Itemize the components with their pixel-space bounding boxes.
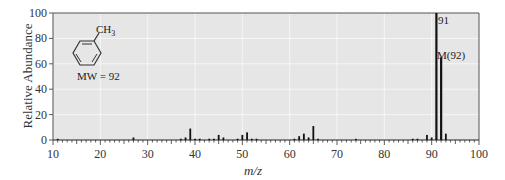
svg-text:30: 30	[142, 147, 154, 161]
svg-text:80: 80	[35, 31, 47, 45]
peak-bar	[133, 137, 135, 140]
svg-text:60: 60	[35, 57, 47, 71]
peak-bar	[194, 139, 196, 140]
peak-bar	[208, 139, 210, 140]
svg-text:80: 80	[378, 147, 390, 161]
peak-bar	[317, 139, 319, 140]
peak-bar	[246, 132, 248, 140]
svg-text:40: 40	[35, 82, 47, 96]
svg-text:60: 60	[284, 147, 296, 161]
peak-bar	[218, 135, 220, 140]
svg-text:70: 70	[331, 147, 343, 161]
peak-bar	[199, 139, 201, 140]
molecular-weight-label: MW = 92	[77, 70, 120, 82]
svg-text:40: 40	[189, 147, 201, 161]
peak-bar	[57, 139, 59, 140]
peak-bar	[417, 139, 419, 140]
svg-text:100: 100	[470, 147, 488, 161]
peak-bar	[251, 139, 253, 140]
x-axis-label: m/z	[244, 163, 262, 178]
peak-bar	[355, 139, 357, 140]
peak-bar	[223, 137, 225, 140]
peak-label-molecular-ion: M(92)	[437, 49, 465, 62]
peak-bar	[189, 129, 191, 140]
peak-bar	[213, 139, 215, 140]
mass-spectrum-chart: 102030405060708090100 020406080100 Relat…	[0, 0, 505, 180]
y-axis-label: Relative Abundance	[20, 23, 35, 128]
peak-bar	[180, 139, 182, 140]
peak-bar	[241, 135, 243, 140]
svg-text:0: 0	[41, 133, 47, 147]
peak-bar	[298, 136, 300, 140]
peak-bar	[294, 139, 296, 140]
svg-text:100: 100	[29, 6, 47, 20]
svg-text:10: 10	[47, 147, 59, 161]
peak-bar	[426, 135, 428, 140]
peak-bar	[185, 137, 187, 140]
peak-bar	[312, 126, 314, 140]
x-axis-ticks: 102030405060708090100	[47, 140, 488, 161]
peak-label-91: 91	[438, 14, 449, 26]
peak-bar	[256, 139, 258, 140]
svg-text:90: 90	[426, 147, 438, 161]
peak-bar	[431, 137, 433, 140]
peak-bar	[445, 134, 447, 140]
peak-bar	[308, 137, 310, 140]
svg-text:20: 20	[94, 147, 106, 161]
peak-bar	[440, 57, 442, 140]
svg-text:50: 50	[236, 147, 248, 161]
svg-text:20: 20	[35, 108, 47, 122]
peak-bar	[237, 139, 239, 140]
peak-bar	[303, 134, 305, 140]
peak-bar	[435, 13, 437, 140]
peak-bar	[412, 139, 414, 140]
